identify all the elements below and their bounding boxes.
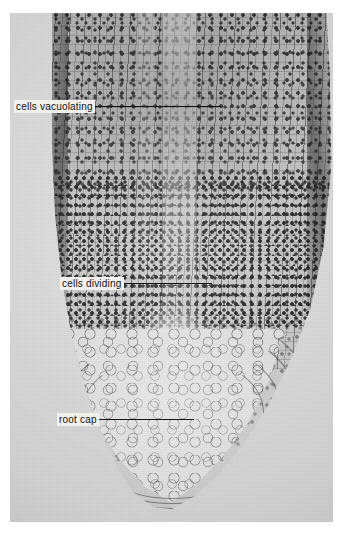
- annotation-root-cap: root cap: [57, 412, 194, 426]
- leader-line-cells-dividing: [124, 283, 212, 284]
- leader-line-cells-vacuolating: [95, 106, 221, 107]
- annotation-label-root-cap: root cap: [57, 413, 99, 426]
- annotation-label-cells-dividing: cells dividing: [60, 277, 124, 290]
- annotation-cells-dividing: cells dividing: [60, 276, 212, 290]
- figure-page: cells vacuolating cells dividing root ca…: [0, 0, 345, 543]
- leader-line-root-cap: [99, 419, 194, 420]
- annotation-cells-vacuolating: cells vacuolating: [14, 99, 221, 113]
- root-tip-photomicrograph: [10, 13, 333, 522]
- root-shading: [10, 13, 333, 522]
- root-body: [10, 13, 333, 522]
- annotation-label-cells-vacuolating: cells vacuolating: [14, 100, 95, 113]
